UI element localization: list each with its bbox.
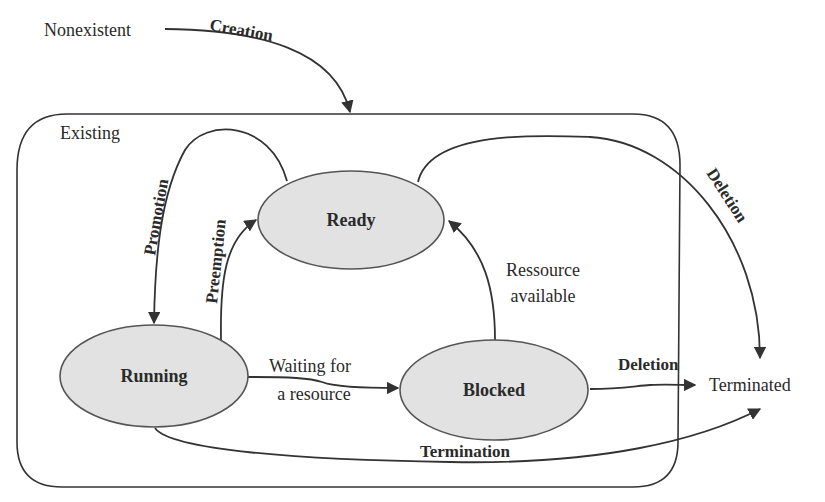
state-blocked: Blocked [400,340,588,440]
label-terminated: Terminated [709,375,791,395]
label-termination: Termination [420,442,511,461]
edge-resource-available [449,221,495,340]
existing-container [17,114,680,487]
label-existing: Existing [60,123,120,143]
state-running-label: Running [120,366,187,386]
state-running: Running [60,325,248,427]
state-blocked-label: Blocked [463,380,525,400]
label-waiting-line2: a resource [277,384,350,404]
label-creation: Creation [208,15,275,45]
label-nonexistent: Nonexistent [44,20,131,40]
state-ready-label: Ready [327,210,376,230]
state-ready: Ready [258,171,444,269]
label-waiting-line1: Waiting for [269,356,351,376]
label-resource-line2: available [511,286,576,306]
label-preemption: Preemption [202,218,230,305]
state-diagram: Ready Running Blocked Nonexistent Existi… [0,0,825,502]
edge-deletion-ready [418,136,760,358]
label-deletion-blocked: Deletion [618,355,679,374]
edge-deletion-blocked [590,385,695,389]
label-promotion: Promotion [140,177,172,257]
label-deletion-ready: Deletion [703,165,752,226]
label-resource-line1: Ressource [506,260,580,280]
